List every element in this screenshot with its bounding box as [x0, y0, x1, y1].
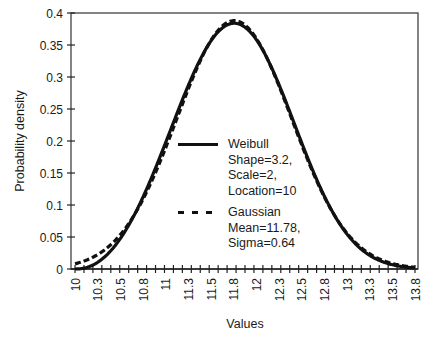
y-axis: 00.050.10.150.20.250.30.350.4	[40, 7, 75, 277]
y-tick-label: 0.3	[46, 71, 63, 85]
x-tick-label: 10.5	[114, 278, 128, 302]
legend-detail: Scale=2,	[228, 168, 296, 184]
legend-label: Weibull	[228, 137, 296, 153]
legend-detail: Mean=11.78,	[228, 221, 300, 237]
x-tick-label: 12.8	[318, 278, 332, 302]
legend-item-weibull: Weibull Shape=3.2, Scale=2, Location=10	[178, 137, 300, 199]
y-tick-label: 0.1	[46, 199, 63, 213]
x-tick-label: 11.3	[182, 278, 196, 301]
y-tick-label: 0.4	[46, 7, 63, 21]
dashed-line-icon	[178, 205, 218, 220]
y-tick-label: 0.25	[40, 103, 64, 117]
x-tick-label: 11.8	[227, 278, 241, 301]
y-tick-label: 0.05	[40, 231, 64, 245]
legend-detail: Sigma=0.64	[228, 236, 300, 252]
x-tick-label: 12.5	[295, 278, 309, 302]
x-tick-label: 11	[159, 278, 173, 291]
x-tick-label: 13	[341, 278, 355, 292]
legend: Weibull Shape=3.2, Scale=2, Location=10 …	[178, 137, 300, 252]
x-axis-title: Values	[226, 317, 263, 331]
x-tick-label: 13.3	[363, 278, 377, 302]
y-tick-label: 0	[56, 263, 63, 277]
x-tick-label: 10.3	[91, 278, 105, 302]
x-tick-label: 12	[250, 278, 264, 292]
x-tick-label: 13.8	[409, 278, 423, 302]
legend-detail: Shape=3.2,	[228, 153, 296, 169]
x-tick-label: 11.5	[205, 278, 219, 301]
x-tick-label: 10	[69, 278, 83, 292]
y-tick-label: 0.35	[40, 39, 64, 53]
legend-detail: Location=10	[228, 184, 296, 200]
x-tick-label: 12.3	[273, 278, 287, 302]
y-tick-label: 0.15	[40, 167, 64, 181]
solid-line-icon	[178, 137, 218, 152]
y-axis-title: Probability density	[13, 90, 27, 192]
x-tick-label: 13.5	[386, 278, 400, 302]
y-tick-label: 0.2	[46, 135, 63, 149]
x-tick-label: 10.8	[137, 278, 151, 302]
x-axis: 1010.310.510.81111.311.511.81212.312.512…	[69, 265, 423, 301]
legend-item-gaussian: Gaussian Mean=11.78, Sigma=0.64	[178, 205, 300, 252]
legend-label: Gaussian	[228, 205, 300, 221]
